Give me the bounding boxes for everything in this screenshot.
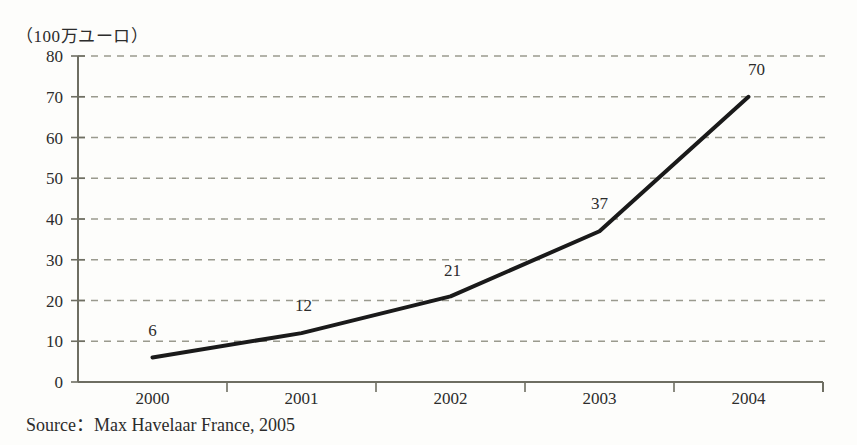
x-tick-label: 2001	[285, 389, 319, 408]
x-tick-label: 2003	[583, 389, 617, 408]
y-tick-label: 30	[46, 251, 63, 270]
y-tick-label: 50	[46, 169, 63, 188]
y-tick-label: 0	[55, 373, 64, 392]
y-tick-label: 70	[46, 88, 63, 107]
data-point-label: 6	[148, 321, 157, 340]
line-chart: 01020304050607080 20002001200220032004 6…	[0, 0, 857, 445]
gridlines-group	[78, 56, 825, 382]
data-point-label: 21	[444, 261, 461, 280]
y-tick-label: 80	[46, 47, 63, 66]
data-point-label: 12	[295, 296, 312, 315]
x-tick-labels-group: 20002001200220032004	[136, 389, 767, 408]
y-tick-label: 20	[46, 292, 63, 311]
data-series-line	[153, 97, 749, 358]
x-tick-label: 2002	[434, 389, 468, 408]
chart-page: （100万ユーロ） 01020304050607080 200020012002…	[0, 0, 857, 445]
y-tick-label: 40	[46, 210, 63, 229]
y-tick-label: 10	[46, 332, 63, 351]
y-tick-label: 60	[46, 129, 63, 148]
data-point-label: 37	[591, 194, 609, 213]
data-point-label: 70	[748, 60, 765, 79]
x-tick-label: 2000	[136, 389, 170, 408]
data-point-labels-group: 612213770	[148, 60, 765, 340]
x-tick-label: 2004	[732, 389, 767, 408]
source-note: Source：Max Havelaar France, 2005	[26, 410, 295, 436]
y-tick-labels-group: 01020304050607080	[46, 47, 63, 392]
